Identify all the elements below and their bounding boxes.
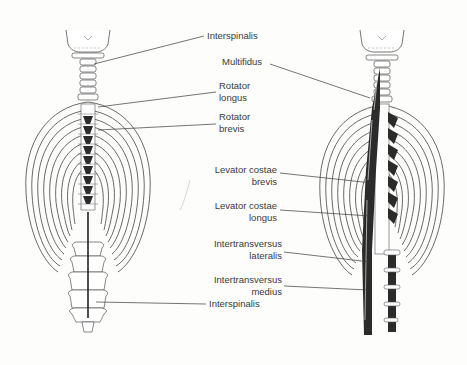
label-line: brevis <box>219 123 250 135</box>
label-rotator-longus: Rotator longus <box>219 80 250 104</box>
label-interspinalis-bottom: Interspinalis <box>209 298 260 310</box>
label-intertransversus-medius: Intertransversus medius <box>214 274 282 298</box>
label-line: longus <box>215 212 277 224</box>
label-line: Intertransversus <box>214 274 282 286</box>
label-line: longus <box>219 92 250 104</box>
label-text: Multifidus <box>222 56 262 67</box>
label-line: Rotator <box>219 80 250 92</box>
label-intertransversus-lateralis: Intertransversus lateralis <box>214 238 282 262</box>
label-levator-costae-brevis: Levator costae brevis <box>215 164 277 188</box>
label-line: medius <box>214 286 282 298</box>
right-spine-figure <box>320 30 444 335</box>
label-rotator-brevis: Rotator brevis <box>219 111 250 135</box>
label-interspinalis-top: Interspinalis <box>207 30 258 42</box>
label-line: Levator costae <box>215 164 277 176</box>
label-levator-costae-longus: Levator costae longus <box>215 200 277 224</box>
label-line: Rotator <box>219 111 250 123</box>
label-text: Interspinalis <box>209 298 260 309</box>
label-line: Levator costae <box>215 200 277 212</box>
label-text: Interspinalis <box>207 30 258 41</box>
label-line: Intertransversus <box>214 238 282 250</box>
label-line: lateralis <box>214 250 282 262</box>
label-line: brevis <box>215 176 277 188</box>
anatomy-diagram: Interspinalis Multifidus Rotator longus … <box>0 0 467 365</box>
label-multifidus: Multifidus <box>222 56 262 68</box>
left-spine-figure <box>26 30 150 332</box>
